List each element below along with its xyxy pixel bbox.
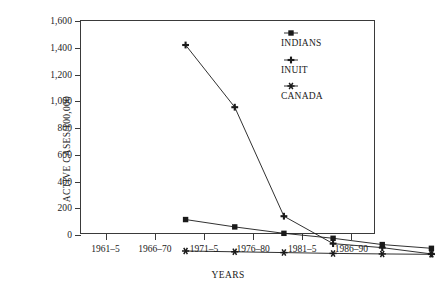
marker-asterisk	[329, 250, 336, 257]
series-line-indians	[186, 220, 432, 249]
x-axis-title: YEARS	[211, 270, 244, 280]
y-tick-label: 1,200	[50, 70, 72, 80]
y-tick-mark	[75, 21, 81, 22]
marker-filled-square	[281, 231, 286, 236]
marker-filled-square	[429, 246, 434, 251]
legend-label: CANADA	[281, 92, 323, 102]
legend-marker-filled-square-icon	[284, 28, 298, 38]
x-tick-label: 1961–5	[91, 244, 120, 254]
y-tick-mark	[75, 75, 81, 76]
marker-plus	[288, 56, 295, 63]
legend-marker-asterisk-icon	[284, 81, 298, 91]
marker-filled-square	[183, 217, 188, 222]
y-tick-mark	[75, 101, 81, 102]
y-tick-label: 1,400	[50, 43, 72, 53]
y-tick-label: 400	[57, 177, 72, 187]
y-tick-mark	[75, 208, 81, 209]
legend-label: INUIT	[281, 66, 323, 76]
y-tick-label: 1,600	[50, 16, 72, 26]
y-tick-mark	[75, 182, 81, 183]
chart-legend: INDIANSINUITCANADA	[281, 28, 323, 108]
legend-label: INDIANS	[281, 39, 323, 49]
legend-item-canada: CANADA	[281, 81, 323, 102]
marker-filled-square	[330, 236, 335, 241]
y-tick-mark	[75, 235, 81, 236]
marker-plus	[281, 213, 288, 220]
y-tick-label: 800	[57, 123, 72, 133]
marker-filled-square	[288, 30, 293, 35]
y-tick-label: 1,000	[50, 96, 72, 106]
y-tick-mark	[75, 128, 81, 129]
y-tick-mark	[75, 48, 81, 49]
marker-asterisk	[231, 248, 238, 255]
marker-asterisk	[379, 250, 386, 257]
legend-item-inuit: INUIT	[281, 55, 323, 76]
y-tick-mark	[75, 155, 81, 156]
marker-plus	[330, 240, 337, 247]
series-line-canada	[186, 251, 432, 254]
marker-asterisk	[287, 83, 294, 90]
legend-marker-plus-icon	[284, 55, 298, 65]
x-tick-mark	[155, 233, 156, 240]
y-tick-label: 200	[57, 203, 72, 213]
x-tick-mark	[106, 233, 107, 240]
y-tick-label: 0	[67, 230, 72, 240]
legend-item-indians: INDIANS	[281, 28, 323, 49]
plot-area: 02004006008001,0001,2001,4001,600 1961–5…	[80, 20, 375, 234]
marker-filled-square	[232, 224, 237, 229]
y-tick-label: 600	[57, 150, 72, 160]
marker-asterisk	[182, 247, 189, 254]
marker-asterisk	[280, 249, 287, 256]
